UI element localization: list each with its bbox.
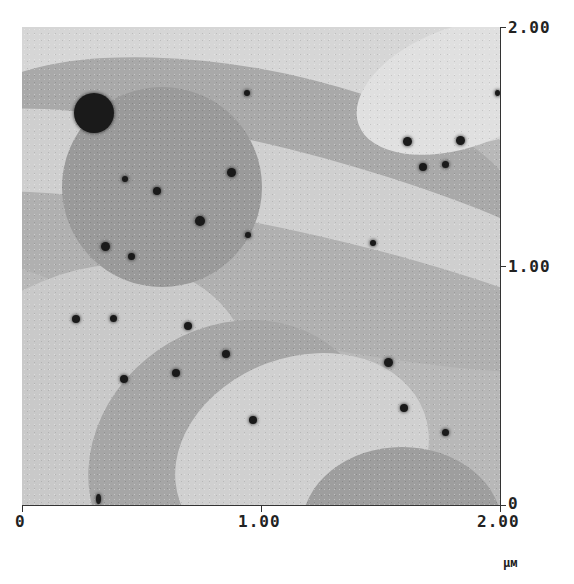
particle	[128, 253, 135, 260]
particle	[153, 187, 161, 195]
particle	[384, 358, 393, 367]
particle	[403, 137, 412, 146]
particle	[244, 90, 250, 96]
x-tick	[22, 505, 23, 512]
particle	[184, 322, 192, 330]
x-axis-unit: μм	[503, 556, 517, 570]
particle	[370, 240, 376, 246]
particle	[400, 404, 408, 412]
particle	[122, 176, 128, 182]
x-tick-label: 2.00	[477, 512, 520, 531]
particle	[120, 375, 128, 383]
large-particle	[74, 93, 114, 133]
particle	[249, 416, 257, 424]
particle	[245, 232, 251, 238]
y-tick	[500, 27, 506, 28]
particle	[110, 315, 117, 322]
particle	[101, 242, 110, 251]
x-tick	[261, 505, 262, 512]
y-tick-label: 2.00	[508, 18, 551, 37]
particle	[72, 315, 80, 323]
particle	[195, 216, 205, 226]
particle	[227, 168, 236, 177]
x-tick-label: 1.00	[238, 512, 281, 531]
afm-image	[22, 27, 500, 505]
particle	[222, 350, 230, 358]
y-tick	[500, 266, 506, 267]
particle	[442, 429, 449, 436]
particle	[96, 494, 101, 504]
y-tick-label: 1.00	[508, 257, 551, 276]
x-tick	[500, 505, 501, 512]
y-tick-label: 0	[508, 494, 519, 513]
y-tick	[500, 505, 506, 506]
particle	[172, 369, 180, 377]
x-tick-label: 0	[15, 512, 26, 531]
particle	[442, 161, 449, 168]
particle	[456, 136, 465, 145]
particle	[419, 163, 427, 171]
